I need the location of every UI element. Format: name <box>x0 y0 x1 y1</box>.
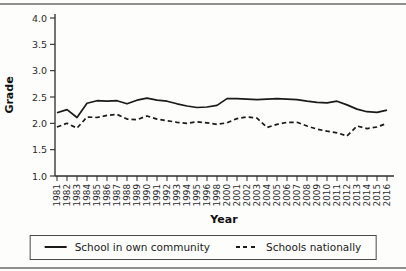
y-tick-label: 1.5 <box>32 144 47 155</box>
y-tick-label: 4.0 <box>32 13 47 24</box>
bottom-rule <box>0 267 406 269</box>
x-tick-label: 2010 <box>322 184 332 207</box>
x-axis-title: Year <box>209 213 238 226</box>
legend-label-nationally: Schools nationally <box>266 241 361 253</box>
y-tick-label: 3.0 <box>32 65 47 76</box>
x-tick-label: 1981 <box>52 184 62 206</box>
legend-item-community: School in own community <box>45 241 210 253</box>
figure-page: Grade Year 4.03.53.02.52.01.51.019811982… <box>0 0 406 271</box>
x-tick-label: 2005 <box>272 184 282 206</box>
y-tick-label: 3.5 <box>32 39 47 50</box>
dashed-line-swatch-icon <box>236 246 258 248</box>
x-tick-label: 2007 <box>292 184 302 206</box>
solid-line-swatch-icon <box>45 246 67 248</box>
x-tick-label: 1996 <box>202 184 212 207</box>
x-tick-label: 2001 <box>232 184 242 206</box>
legend-item-nationally: Schools nationally <box>236 241 361 253</box>
series-line-0 <box>57 98 387 117</box>
x-tick-label: 1985 <box>92 184 102 206</box>
x-tick-label: 2015 <box>372 184 382 206</box>
x-tick-label: 2002 <box>242 184 252 206</box>
x-tick-label: 2016 <box>382 184 392 207</box>
x-tick-label: 2000 <box>222 184 232 207</box>
x-tick-label: 2003 <box>252 184 262 206</box>
x-tick-label: 1991 <box>152 184 162 206</box>
x-tick-label: 1983 <box>72 184 82 206</box>
y-tick-label: 2.5 <box>32 92 47 103</box>
x-tick-label: 1992 <box>162 184 172 206</box>
x-tick-label: 1984 <box>82 184 92 207</box>
legend-label-community: School in own community <box>75 241 210 253</box>
x-tick-label: 2014 <box>362 184 372 207</box>
x-tick-label: 1990 <box>142 184 152 207</box>
x-tick-label: 2008 <box>302 184 312 206</box>
y-tick-label: 2.0 <box>32 118 47 129</box>
x-tick-label: 2004 <box>262 184 272 207</box>
x-tick-label: 2011 <box>332 184 342 206</box>
x-tick-label: 2012 <box>342 184 352 206</box>
x-tick-label: 1987 <box>112 184 122 206</box>
x-tick-label: 1993 <box>172 184 182 206</box>
legend-box: School in own community Schools national… <box>30 235 377 260</box>
x-tick-label: 1986 <box>102 184 112 207</box>
x-tick-label: 1989 <box>132 184 142 206</box>
x-tick-label: 2013 <box>352 184 362 206</box>
x-tick-label: 2009 <box>312 184 322 206</box>
line-chart: Grade Year 4.03.53.02.52.01.51.019811982… <box>0 0 406 232</box>
x-tick-label: 1988 <box>122 184 132 206</box>
x-tick-label: 1982 <box>62 184 72 206</box>
x-tick-label: 1995 <box>192 184 202 206</box>
x-tick-label: 1994 <box>182 184 192 207</box>
y-tick-label: 1.0 <box>32 171 47 182</box>
y-axis-title: Grade <box>3 76 16 113</box>
x-tick-label: 1998 <box>212 184 222 206</box>
series-line-1 <box>57 114 387 136</box>
x-tick-label: 2006 <box>282 184 292 207</box>
